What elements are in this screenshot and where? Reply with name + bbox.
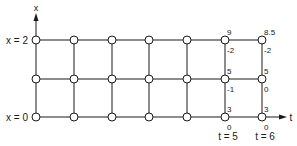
node-circle-icon [221, 36, 229, 44]
node-circle-icon [221, 113, 229, 121]
node-circle-icon [108, 75, 116, 83]
node-circle-icon [32, 36, 40, 44]
node-circle-icon [145, 113, 153, 121]
node-circle-icon [258, 36, 266, 44]
node-circle-icon [183, 36, 191, 44]
node-value-bottom: -2 [264, 46, 272, 55]
node-value-bottom: -1 [227, 85, 235, 94]
node-circle-icon [183, 75, 191, 83]
node-value-bottom: 0 [264, 85, 269, 94]
row-labels: x = 2x = 0 [6, 35, 28, 123]
column-label: t = 5 [218, 131, 238, 142]
x-axis-label: x [34, 3, 39, 13]
node-circle-icon [70, 36, 78, 44]
node-circle-icon [145, 36, 153, 44]
column-labels: t = 5t = 6 [218, 131, 275, 142]
column-label: t = 6 [255, 131, 275, 142]
node-value-top: 8.5 [264, 28, 276, 37]
node-circle-icon [258, 113, 266, 121]
node-circle-icon [70, 113, 78, 121]
node-circle-icon [32, 75, 40, 83]
row-label: x = 2 [6, 35, 28, 46]
node-circle-icon [145, 75, 153, 83]
node-circle-icon [258, 75, 266, 83]
node-circle-icon [221, 75, 229, 83]
node-circle-icon [108, 36, 116, 44]
grid-diagram: x t x = 2x = 0 t = 5t = 6 9-28.5-25-1503… [0, 0, 297, 146]
node-circle-icon [183, 113, 191, 121]
node-value-bottom: 0 [227, 123, 232, 132]
node-circle-icon [108, 113, 116, 121]
t-axis-arrow-icon [279, 115, 287, 120]
node-value-top: 5 [264, 67, 269, 76]
node-value-top: 3 [227, 105, 232, 114]
node-circle-icon [32, 113, 40, 121]
node-value-bottom: -2 [227, 46, 235, 55]
node-value-top: 5 [227, 67, 232, 76]
node-value-top: 9 [227, 28, 232, 37]
row-label: x = 0 [6, 112, 28, 123]
node-values: 9-28.5-25-1503030 [227, 28, 276, 132]
t-axis-label: t [290, 112, 293, 123]
node-value-bottom: 0 [264, 123, 269, 132]
node-circle-icon [70, 75, 78, 83]
x-axis-arrow-icon [34, 13, 39, 21]
node-value-top: 3 [264, 105, 269, 114]
axes: x t [34, 3, 293, 123]
